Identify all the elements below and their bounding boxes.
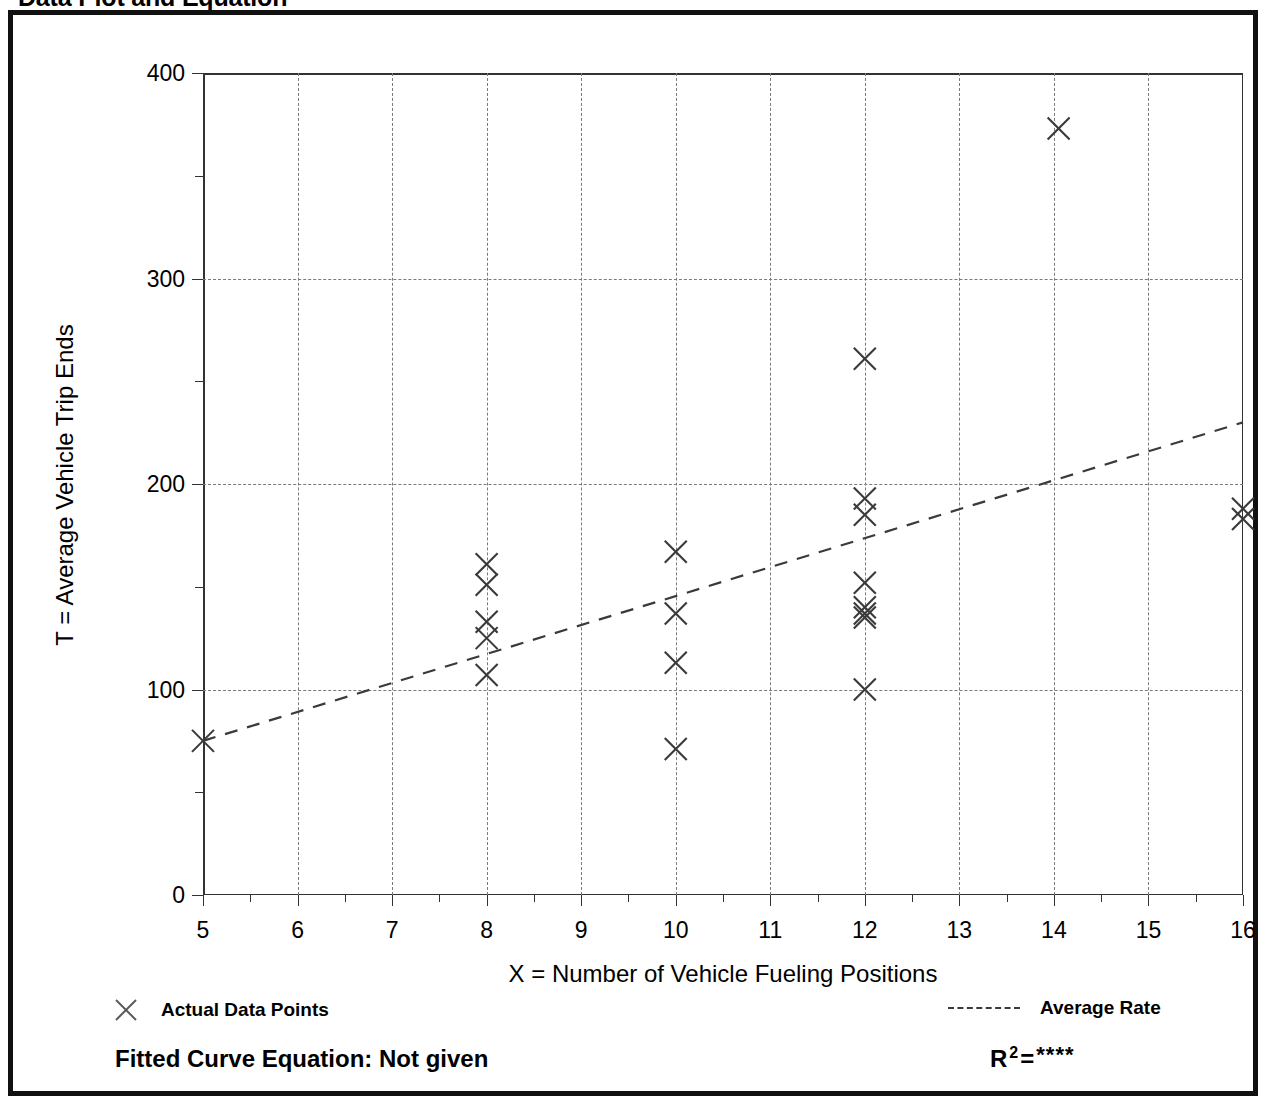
data-point-marker (665, 541, 687, 563)
x-axis-tick-label: 11 (758, 917, 782, 944)
x-axis-tick-label: 16 (1230, 917, 1256, 944)
chart-panel: 0100200300400 5678910111213141516 T = Av… (8, 10, 1258, 1096)
r-squared-stars: **** (1036, 1042, 1074, 1068)
x-axis-tick (392, 895, 393, 906)
x-axis-tick (203, 895, 204, 906)
x-axis-tick (959, 895, 960, 906)
x-axis-tick (581, 895, 582, 906)
x-axis-tick-label: 14 (1041, 917, 1067, 944)
legend-label-average-rate: Average Rate (1040, 997, 1161, 1019)
data-point-marker (1048, 117, 1070, 139)
y-axis-tick-label: 0 (115, 882, 185, 909)
legend: Actual Data Points Average Rate (13, 997, 1253, 1037)
y-axis-minor-tick (195, 792, 203, 793)
y-axis-tick-label: 300 (115, 265, 185, 292)
y-axis-tick (192, 484, 203, 485)
x-axis-tick (770, 895, 771, 906)
data-point-marker (665, 602, 687, 624)
x-axis-tick-label: 15 (1136, 917, 1162, 944)
x-axis-tick (1243, 895, 1244, 906)
data-point-marker (476, 553, 498, 575)
data-point-marker (854, 572, 876, 594)
x-axis-minor-tick (1007, 895, 1008, 902)
data-point-marker (854, 596, 876, 618)
data-point-marker (476, 664, 498, 686)
x-axis-minor-tick (345, 895, 346, 902)
data-point-marker (192, 730, 214, 752)
x-axis-minor-tick (912, 895, 913, 902)
data-point-marker (854, 602, 876, 624)
x-axis-title: X = Number of Vehicle Fueling Positions (203, 960, 1243, 988)
x-axis-tick-label: 5 (197, 917, 210, 944)
x-axis-tick-label: 8 (480, 917, 493, 944)
x-axis-minor-tick (628, 895, 629, 902)
data-point-marker (665, 738, 687, 760)
data-point-marker (1232, 498, 1254, 520)
x-axis-minor-tick (1196, 895, 1197, 902)
y-axis-tick (192, 690, 203, 691)
legend-item-actual-data-points: Actual Data Points (113, 997, 329, 1023)
x-axis-minor-tick (439, 895, 440, 902)
y-axis-minor-tick (195, 381, 203, 382)
data-point-marker (854, 679, 876, 701)
x-axis-tick (865, 895, 866, 906)
r-squared-equals: = (1020, 1045, 1034, 1073)
data-point-marker (665, 652, 687, 674)
x-axis-tick-label: 13 (947, 917, 973, 944)
y-axis-minor-tick (195, 587, 203, 588)
x-axis-tick-label: 10 (663, 917, 689, 944)
y-axis-tick-label: 100 (115, 676, 185, 703)
x-axis-minor-tick (1101, 895, 1102, 902)
data-point-marker (854, 348, 876, 370)
plot-canvas (203, 73, 1243, 895)
r-squared-label: R (990, 1045, 1007, 1073)
y-axis-tick-label: 200 (115, 471, 185, 498)
y-axis-tick (192, 73, 203, 74)
y-axis-title: T = Average Vehicle Trip Ends (51, 324, 79, 645)
x-axis-tick-label: 7 (386, 917, 399, 944)
x-axis-tick (1148, 895, 1149, 906)
legend-label-actual-data-points: Actual Data Points (161, 999, 329, 1021)
x-axis-tick (298, 895, 299, 906)
x-axis-minor-tick (723, 895, 724, 902)
legend-item-average-rate: Average Rate (948, 997, 1161, 1019)
x-axis-minor-tick (250, 895, 251, 902)
y-axis-tick (192, 279, 203, 280)
dashed-line-icon (948, 1007, 1020, 1009)
fitted-curve-equation: Fitted Curve Equation: Not given (115, 1045, 488, 1073)
y-axis-tick-label: 400 (115, 60, 185, 87)
x-axis-tick (1054, 895, 1055, 906)
r-squared-value: R2 = **** (990, 1045, 1075, 1073)
plot-area: 0100200300400 5678910111213141516 (203, 73, 1243, 895)
average-rate-trend-line (203, 422, 1243, 741)
x-axis-tick-label: 6 (291, 917, 304, 944)
x-axis-minor-tick (818, 895, 819, 902)
x-marker-icon (113, 997, 139, 1023)
data-point-marker (1232, 508, 1254, 530)
data-point-markers (192, 117, 1254, 760)
footer: Fitted Curve Equation: Not given R2 = **… (13, 1045, 1253, 1095)
data-point-marker (854, 504, 876, 526)
x-axis-tick (676, 895, 677, 906)
data-point-marker (476, 574, 498, 596)
y-axis-minor-tick (195, 176, 203, 177)
x-axis-minor-tick (534, 895, 535, 902)
x-axis-tick (487, 895, 488, 906)
x-axis-tick-label: 12 (852, 917, 878, 944)
x-axis-tick-label: 9 (575, 917, 588, 944)
data-point-marker (476, 627, 498, 649)
y-axis-tick (192, 895, 203, 896)
r-squared-exponent: 2 (1009, 1044, 1018, 1062)
data-point-marker (854, 607, 876, 629)
